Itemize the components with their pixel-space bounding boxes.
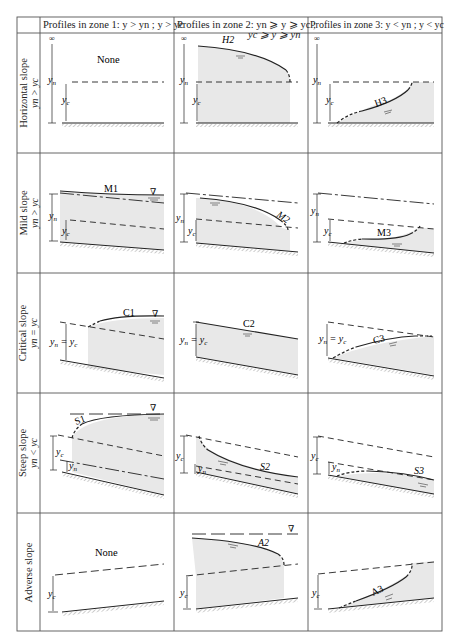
h2-label: H2 [221, 34, 234, 45]
gvf-profile-table: ∞ yn yc None ∞ yn yc H2 ∞ yn yc H3 [0, 0, 458, 643]
m3-label: M3 [377, 227, 391, 238]
svg-text:yc: yc [310, 450, 319, 463]
horizontal-zone3-cell: ∞ yn yc H3 [312, 34, 434, 127]
svg-text:yc: yc [187, 225, 196, 238]
yc-label: yc [61, 94, 70, 107]
critical-zone1-cell: yn = yc C1 ∇ [49, 307, 164, 382]
c1-label: C1 [123, 307, 135, 318]
steep-zone3-cell: yc yn S3 [310, 436, 434, 498]
svg-text:yc: yc [311, 587, 320, 600]
none-label: None [97, 54, 120, 65]
steep-zone2-cell: yc yn S2 [175, 435, 298, 498]
svg-text:yn = yc: yn = yc [49, 336, 78, 349]
svg-text:yn: yn [175, 212, 184, 225]
a2-label: A2 [257, 537, 269, 548]
svg-text:∇: ∇ [288, 524, 294, 534]
m2-label: M2 [274, 208, 292, 225]
svg-text:∇: ∇ [150, 403, 156, 413]
mild-zone2-cell: yn yc M2 [175, 193, 298, 256]
row-label-mild: Mild slope yn > yc [17, 153, 40, 273]
adverse-zone3-cell: yc A3 [311, 561, 434, 613]
header-zone3: Profiles in zone 3: y < yn ; y < yc [310, 17, 444, 33]
mild-zone1-cell: yn yc M1 ∇ [48, 183, 164, 254]
s3-label: S3 [414, 465, 424, 476]
svg-text:∞: ∞ [314, 34, 320, 43]
adverse-zone1-cell: yc None [47, 547, 164, 616]
row-label-steep: Steep slope yn < yc [17, 393, 40, 513]
svg-text:yn = yc: yn = yc [179, 334, 208, 347]
mild-zone3-cell: yn yc M3 [310, 193, 434, 257]
svg-text:yc: yc [47, 588, 56, 601]
c2-label: C2 [243, 318, 255, 329]
yn-label: yn [47, 74, 56, 87]
none-label-adverse: None [95, 547, 118, 558]
infinity-label: ∞ [49, 34, 55, 43]
header-zone1: Profiles in zone 1: y > yn ; y > yc [43, 17, 184, 33]
s2-label: S2 [260, 461, 270, 472]
svg-text:yc: yc [325, 94, 334, 107]
svg-text:yc: yc [323, 225, 332, 238]
header-zone2-alt: yc ⩾ y ⩾ yn [248, 27, 300, 43]
svg-text:yn: yn [312, 74, 321, 87]
horizontal-zone1-cell: ∞ yn yc None [47, 34, 164, 127]
adverse-zone2-cell: yc A2 ∇ [179, 524, 298, 613]
critical-zone2-cell: yn = yc C2 [179, 318, 298, 379]
svg-text:yn: yn [179, 74, 188, 87]
critical-zone3-cell: yn = yc C3 [318, 322, 434, 380]
svg-text:∞: ∞ [181, 34, 187, 43]
svg-text:∇: ∇ [152, 309, 158, 319]
svg-text:yn: yn [331, 461, 340, 474]
horizontal-zone2-cell: ∞ yn yc H2 [179, 34, 298, 127]
m1-label: M1 [104, 183, 118, 194]
svg-text:yn: yn [310, 205, 319, 218]
row-label-adverse: Adverse slope [17, 513, 40, 631]
svg-text:yn: yn [48, 210, 57, 223]
water-surface-symbol: ∇ [150, 187, 156, 197]
row-label-critical: Critical slope yn = yc [17, 273, 40, 393]
s1-label: S1 [73, 413, 87, 427]
svg-text:yc: yc [55, 446, 64, 459]
svg-text:yn = yc: yn = yc [318, 333, 347, 346]
svg-text:yc: yc [175, 450, 184, 463]
row-label-horizontal: Horizontal slope yn > yc [17, 33, 40, 153]
steep-zone1-cell: yc yn S1 ∇ [50, 403, 164, 499]
